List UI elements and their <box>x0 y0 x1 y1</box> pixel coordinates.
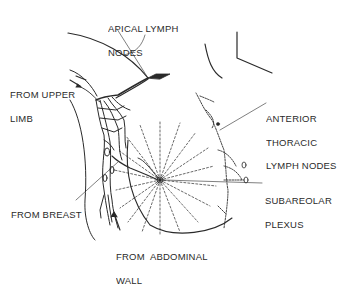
label-apical-line2: NODES <box>108 49 179 57</box>
breast-vessel <box>112 156 158 180</box>
label-abdominal-line1: FROM ABDOMINAL <box>116 254 208 262</box>
lymph-trunk <box>96 78 148 100</box>
label-subareolar-line2: PLEXUS <box>265 221 332 229</box>
label-subareolar-line1: SUBAREOLAR <box>265 198 332 206</box>
axillary-vessels <box>96 97 130 228</box>
label-apical-lymph-nodes: APICAL LYMPH NODES <box>108 10 179 65</box>
apical-node <box>148 74 170 79</box>
label-from-abdominal-wall: FROM ABDOMINAL WALL <box>116 238 208 288</box>
subareolar-leader <box>163 180 262 183</box>
label-anterior-thoracic-lymph-nodes: ANTERIOR THORACIC LYMPH NODES <box>266 100 337 178</box>
arrow-from-abdominal-wall <box>111 212 120 230</box>
label-anterior-line3: LYMPH NODES <box>266 163 337 171</box>
label-apical-line1: APICAL LYMPH <box>108 26 179 34</box>
label-anterior-line1: ANTERIOR <box>266 116 337 124</box>
label-upper-limb-line2: LIMB <box>10 115 75 123</box>
label-upper-limb-line1: FROM UPPER <box>10 92 75 100</box>
neck-outline-left <box>205 44 222 78</box>
label-breast-line1: FROM BREAST <box>11 212 82 220</box>
from-breast-leader <box>76 162 118 200</box>
label-from-upper-limb: FROM UPPER LIMB <box>10 76 75 131</box>
anterior-thoracic-leader <box>220 103 266 130</box>
label-abdominal-line2: WALL <box>116 277 208 285</box>
label-anterior-line2: THORACIC <box>266 139 337 147</box>
label-from-breast: FROM BREAST <box>11 196 82 227</box>
label-subareolar-plexus: SUBAREOLAR PLEXUS <box>265 182 332 237</box>
anterior-thoracic-chain <box>196 93 244 228</box>
neck-outline-right <box>237 32 272 73</box>
